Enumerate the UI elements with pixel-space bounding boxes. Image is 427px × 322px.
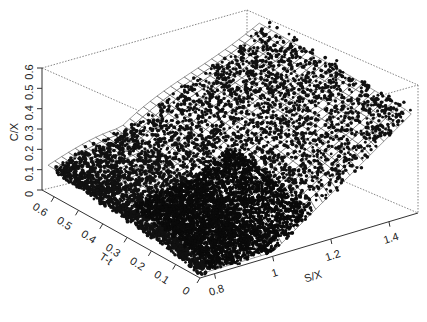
z-tick-label: 0.6 [23,64,35,79]
z-tick-label: 0.5 [23,85,35,100]
z-axis-title: C/X [8,122,20,141]
3d-scatter-surface-chart: 00.10.20.30.40.50.6 0.60.50.40.30.20.10 … [0,0,427,322]
z-tick-label: 0.3 [23,125,35,140]
y-tick-label: 0.6 [31,200,50,218]
x-tick-label: 1.2 [324,247,342,263]
z-tick-label: 0 [23,191,35,197]
x-axis-title: S/X [303,268,324,285]
x-tick-label: 1 [270,266,279,279]
y-tick-label: 0.2 [128,254,147,272]
x-tick-label: 0.8 [207,282,225,298]
z-tick-label: 0.2 [23,146,35,161]
x-tick-label: 1.4 [382,230,400,246]
z-tick-label: 0.4 [23,105,35,120]
z-axis-ticks: 00.10.20.30.40.50.6 [23,64,42,197]
y-tick-label: 0 [180,284,192,297]
y-tick-label: 0.5 [55,214,74,232]
y-tick-label: 0.4 [79,227,98,245]
z-tick-label: 0.1 [23,166,35,181]
y-tick-label: 0.1 [152,268,171,286]
